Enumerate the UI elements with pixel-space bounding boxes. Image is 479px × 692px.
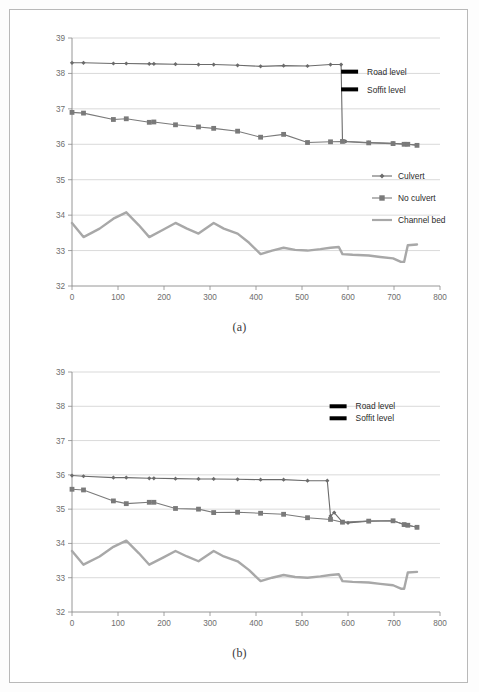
- series-marker-diamond: [196, 477, 200, 481]
- x-axis-tick-label: 500: [295, 293, 309, 302]
- series-line-no-culvert: [72, 489, 417, 527]
- series-marker-square: [405, 142, 410, 147]
- y-axis-tick-label: 38: [55, 69, 65, 78]
- series-marker-diamond: [258, 64, 262, 68]
- series-marker-diamond: [196, 62, 200, 66]
- chart-a-plot: 3233343536373839010020030040050060070080…: [20, 16, 460, 316]
- series-marker-diamond: [173, 62, 177, 66]
- series-marker-diamond: [151, 476, 155, 480]
- series-marker-square: [414, 525, 419, 530]
- x-axis-tick-label: 700: [387, 619, 401, 628]
- series-marker-diamond: [147, 62, 151, 66]
- x-axis-tick-label: 300: [203, 619, 217, 628]
- series-marker-square: [123, 116, 128, 121]
- legend-marker-diamond: [379, 174, 384, 179]
- series-marker-square: [281, 132, 286, 137]
- legend-label-no-culvert: No culvert: [398, 193, 436, 203]
- series-marker-square: [258, 511, 263, 516]
- legend-label-channel-bed: Channel bed: [398, 215, 446, 225]
- series-marker-square: [146, 500, 151, 505]
- x-axis-tick-label: 600: [341, 293, 355, 302]
- annotation-label-road-level: Road level: [367, 67, 407, 77]
- series-marker-square: [258, 135, 263, 140]
- y-axis-tick-label: 32: [55, 608, 65, 617]
- series-marker-square: [69, 110, 74, 115]
- annotation-bar-soffit-level: [329, 416, 346, 420]
- x-axis-tick-label: 0: [69, 293, 74, 302]
- series-marker-diamond: [211, 477, 215, 481]
- y-axis-tick-label: 34: [55, 211, 65, 220]
- y-axis-tick-label: 37: [55, 437, 65, 446]
- series-marker-square: [151, 120, 156, 125]
- x-axis-tick-label: 600: [341, 619, 355, 628]
- series-marker-square: [81, 111, 86, 116]
- series-marker-square: [211, 510, 216, 515]
- y-axis-tick-label: 36: [55, 140, 65, 149]
- series-marker-square: [305, 140, 310, 145]
- series-marker-diamond: [281, 64, 285, 68]
- series-marker-diamond: [339, 62, 343, 66]
- series-marker-square: [111, 499, 116, 504]
- x-axis-tick-label: 400: [249, 619, 263, 628]
- series-marker-square: [196, 125, 201, 130]
- series-marker-square: [111, 117, 116, 122]
- y-axis-tick-label: 36: [55, 471, 65, 480]
- chart-b-plot: 3233343536373839010020030040050060070080…: [20, 350, 460, 642]
- annotation-bar-soffit-level: [341, 87, 358, 91]
- x-axis-tick-label: 300: [203, 293, 217, 302]
- figure-b-caption: (b): [10, 646, 469, 661]
- y-axis-tick-label: 33: [55, 247, 65, 256]
- series-marker-square: [305, 515, 310, 520]
- series-marker-diamond: [305, 64, 309, 68]
- series-marker-square: [405, 523, 410, 528]
- y-axis-tick-label: 37: [55, 105, 65, 114]
- series-marker-diamond: [235, 63, 239, 67]
- series-marker-square: [196, 507, 201, 512]
- x-axis-tick-label: 500: [295, 619, 309, 628]
- x-axis-tick-label: 700: [387, 293, 401, 302]
- figure-a: 3233343536373839010020030040050060070080…: [10, 16, 469, 346]
- annotation-bar-road-level: [329, 404, 346, 408]
- series-marker-square: [211, 126, 216, 131]
- series-marker-diamond: [328, 62, 332, 66]
- y-axis-tick-label: 39: [55, 368, 65, 377]
- series-marker-square: [173, 506, 178, 511]
- series-marker-square: [235, 129, 240, 134]
- series-marker-square: [366, 140, 371, 145]
- series-marker-square: [390, 518, 395, 523]
- series-marker-square: [69, 487, 74, 492]
- y-axis-tick-label: 38: [55, 402, 65, 411]
- series-marker-square: [328, 139, 333, 144]
- y-axis-tick-label: 32: [55, 282, 65, 291]
- series-marker-square: [340, 520, 345, 525]
- series-marker-square: [328, 517, 333, 522]
- series-line-no-culvert: [72, 112, 417, 145]
- series-marker-square: [146, 120, 151, 125]
- x-axis-tick-label: 400: [249, 293, 263, 302]
- figure-b: 3233343536373839010020030040050060070080…: [10, 350, 469, 678]
- y-axis-tick-label: 39: [55, 34, 65, 43]
- x-axis-tick-label: 100: [111, 293, 125, 302]
- annotation-label-soffit-level: Soffit level: [355, 413, 394, 423]
- x-axis-tick-label: 0: [69, 619, 74, 628]
- legend-label-culvert: Culvert: [398, 171, 425, 181]
- series-marker-diamond: [69, 61, 73, 65]
- series-marker-square: [366, 519, 371, 524]
- series-line-channel-bed: [72, 212, 417, 262]
- series-marker-diamond: [111, 476, 115, 480]
- y-axis-tick-label: 33: [55, 574, 65, 583]
- x-axis-tick-label: 200: [157, 293, 171, 302]
- series-marker-square: [81, 488, 86, 493]
- series-marker-square: [123, 501, 128, 506]
- x-axis-tick-label: 800: [433, 619, 447, 628]
- series-marker-square: [235, 510, 240, 515]
- legend-marker-square: [379, 195, 384, 200]
- series-marker-diamond: [258, 478, 262, 482]
- series-marker-diamond: [69, 473, 73, 477]
- series-marker-diamond: [211, 62, 215, 66]
- series-marker-diamond: [305, 479, 309, 483]
- annotation-bar-road-level: [341, 70, 358, 74]
- series-marker-diamond: [325, 479, 329, 483]
- series-marker-diamond: [281, 478, 285, 482]
- x-axis-tick-label: 800: [433, 293, 447, 302]
